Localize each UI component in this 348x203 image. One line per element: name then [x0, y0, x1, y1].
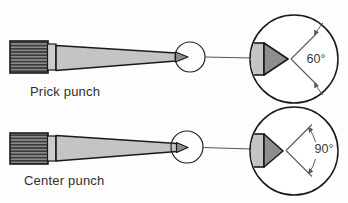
punch-types-diagram: 60° Prick punch 90° Center p [0, 0, 348, 203]
prick-punch-ferrule [48, 44, 57, 70]
center-punch-label: Center punch [24, 173, 104, 188]
center-punch-angle-label: 90° [315, 142, 334, 156]
center-punch-ferrule [48, 136, 57, 161]
prick-punch-label: Prick punch [30, 84, 100, 99]
prick-punch-knurled-handle [10, 41, 48, 73]
center-punch-knurled-handle [10, 133, 48, 164]
diagram-canvas: 60° Prick punch 90° Center p [0, 0, 348, 203]
prick-punch-angle-label: 60° [307, 52, 326, 66]
